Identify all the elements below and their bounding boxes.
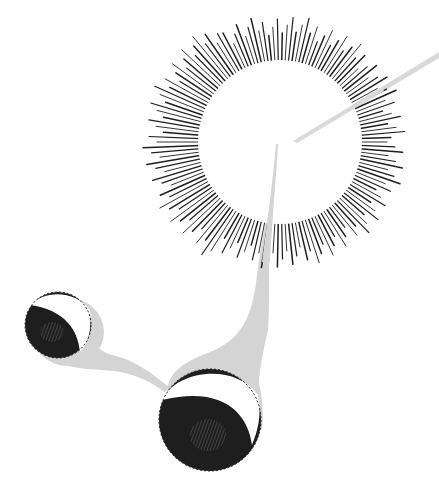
illustration — [0, 0, 439, 494]
large-sphere — [159, 369, 261, 471]
small-sphere — [25, 292, 91, 358]
sun-disc — [198, 60, 362, 224]
